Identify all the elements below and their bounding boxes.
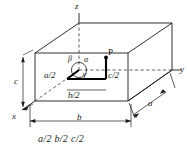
coordinate-axes bbox=[22, 13, 181, 110]
dimension-a-ext-right bbox=[170, 73, 175, 88]
coordinate-label-a-half: a/2 bbox=[44, 71, 56, 80]
axis-label-y: y bbox=[180, 65, 184, 74]
coordinate-label-c-half: c/2 bbox=[108, 71, 119, 80]
dimension-b-arrow-right bbox=[126, 119, 131, 123]
dimension-c-extensions bbox=[23, 50, 33, 109]
point-label-p: P bbox=[108, 48, 113, 57]
dimension-c-ext-top bbox=[23, 50, 33, 55]
top-face-edges bbox=[35, 23, 172, 53]
angle-label-beta: β bbox=[68, 55, 72, 63]
dimension-label-c: c bbox=[14, 77, 18, 86]
figure-canvas: z y x c b a β α γ P a/2 b/2 c/2 a/2 b/2 … bbox=[0, 0, 187, 153]
dimension-c-ext-bottom bbox=[23, 104, 33, 109]
dimension-c-arrow-bottom bbox=[21, 102, 25, 107]
angle-label-alpha: α bbox=[84, 56, 88, 64]
right-face-edges bbox=[128, 23, 172, 101]
cell-hidden-edges bbox=[35, 23, 172, 101]
angle-label-gamma: γ bbox=[83, 71, 86, 79]
dimension-label-a: a bbox=[148, 99, 153, 108]
coordinate-label-b-half: b/2 bbox=[68, 91, 80, 100]
dimension-c-arrow-top bbox=[21, 57, 25, 62]
cell-solid-edges bbox=[35, 23, 172, 101]
figure-caption: a/2 b/2 c/2 bbox=[38, 134, 84, 144]
unit-cell-drawing bbox=[0, 0, 187, 153]
axis-label-z: z bbox=[75, 2, 79, 11]
bottom-right-edge bbox=[128, 70, 172, 101]
dimension-label-b: b bbox=[77, 113, 82, 122]
dimension-b-arrow-left bbox=[30, 119, 35, 123]
axis-label-x: x bbox=[12, 112, 16, 121]
